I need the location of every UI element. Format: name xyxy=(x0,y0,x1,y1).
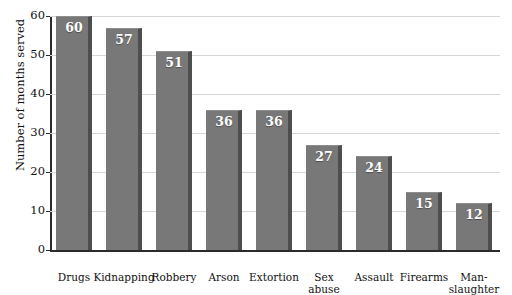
bar-group[interactable]: 36 xyxy=(256,16,296,250)
y-tick-label: 50 xyxy=(5,49,45,61)
bar-group[interactable]: 51 xyxy=(156,16,196,250)
y-tick-label: 60 xyxy=(5,10,45,22)
x-label-line: Arson xyxy=(208,271,239,283)
y-tick-mark xyxy=(46,55,50,56)
bar-value-label: 57 xyxy=(106,34,142,47)
bar-value-label: 51 xyxy=(156,57,192,70)
bar[interactable]: 27 xyxy=(306,145,342,250)
plot-area: 0102030405060 605751363627241512 DrugsKi… xyxy=(50,16,500,250)
x-label-line: Assault xyxy=(355,271,394,283)
bar-group[interactable]: 27 xyxy=(306,16,346,250)
bar[interactable]: 60 xyxy=(56,16,92,250)
x-label-line: Extortion xyxy=(249,271,299,283)
bar[interactable]: 15 xyxy=(406,192,442,251)
x-label-line: Man- xyxy=(460,271,487,283)
bar-group[interactable]: 24 xyxy=(356,16,396,250)
y-tick-mark xyxy=(46,133,50,134)
x-category-label: Man-slaughter xyxy=(443,272,505,295)
bar-value-label: 24 xyxy=(356,162,392,175)
bar-value-label: 36 xyxy=(256,116,292,129)
bar-value-label: 27 xyxy=(306,151,342,164)
y-tick-label: 20 xyxy=(5,166,45,178)
x-label-line: Robbery xyxy=(152,271,197,283)
chart-title xyxy=(0,0,512,1)
x-label-line: Sex xyxy=(314,271,333,283)
x-label-line: slaughter xyxy=(449,283,500,295)
x-label-line: Firearms xyxy=(400,271,449,283)
bar[interactable]: 51 xyxy=(156,51,192,250)
bar[interactable]: 36 xyxy=(206,110,242,250)
y-tick-mark xyxy=(46,172,50,173)
y-tick-label: 0 xyxy=(5,244,45,256)
y-tick-mark xyxy=(46,211,50,212)
bar[interactable]: 36 xyxy=(256,110,292,250)
y-tick-mark xyxy=(46,16,50,17)
bar-value-label: 36 xyxy=(206,116,242,129)
x-label-line: abuse xyxy=(308,283,339,295)
x-label-line: Drugs xyxy=(58,271,90,283)
x-axis-line xyxy=(50,250,500,252)
bar[interactable]: 57 xyxy=(106,28,142,250)
bar-group[interactable]: 57 xyxy=(106,16,146,250)
bar-group[interactable]: 12 xyxy=(456,16,496,250)
bar-group[interactable]: 36 xyxy=(206,16,246,250)
bar-group[interactable]: 60 xyxy=(56,16,96,250)
y-tick-label: 30 xyxy=(5,127,45,139)
bar-value-label: 15 xyxy=(406,198,442,211)
bar-group[interactable]: 15 xyxy=(406,16,446,250)
bar-value-label: 60 xyxy=(56,22,92,35)
bar[interactable]: 12 xyxy=(456,203,492,250)
y-tick-label: 40 xyxy=(5,88,45,100)
y-tick-mark xyxy=(46,94,50,95)
bar[interactable]: 24 xyxy=(356,156,392,250)
bar-value-label: 12 xyxy=(456,209,492,222)
y-tick-mark xyxy=(46,250,50,251)
y-tick-label: 10 xyxy=(5,205,45,217)
